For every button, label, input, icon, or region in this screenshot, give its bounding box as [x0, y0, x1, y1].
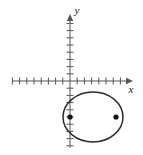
focus-left — [67, 114, 72, 119]
focus-right — [113, 114, 118, 119]
y-axis-label: y — [74, 4, 80, 16]
x-axis-label: x — [128, 83, 134, 95]
figure-container: x y — [0, 0, 143, 155]
coordinate-plane-diagram: x y — [0, 0, 143, 155]
